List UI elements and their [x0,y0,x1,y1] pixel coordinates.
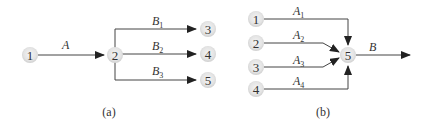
node-a-1: 1 [22,47,38,63]
node-b-4: 4 [248,81,264,97]
edge-label-b: B [369,40,377,54]
edge-label-a4: A4 [292,74,304,90]
edge-label-a: A [61,38,70,52]
edge-label-a2: A2 [292,28,304,44]
node-b-3: 3 [248,59,264,75]
edge-label-a3: A3 [292,53,304,69]
svg-text:5: 5 [205,73,212,88]
edge-label-b2: B2 [152,39,163,55]
diagram-a: A B1 B2 B3 1 2 3 4 5 (a) [22,14,216,119]
node-b-1: 1 [248,11,264,27]
edge-label-b3: B3 [152,64,163,80]
node-a-5: 5 [200,72,216,88]
node-a-3: 3 [200,21,216,37]
diagram-b: A1 A2 A3 A4 B 1 2 3 4 5 (b) [248,4,410,119]
edge-b-2-5 [264,43,339,52]
caption-b: (b) [316,105,330,119]
edge-label-a1: A1 [292,4,304,20]
edge-label-b1: B1 [152,14,163,30]
svg-text:1: 1 [27,48,34,63]
node-b-5: 5 [340,47,356,63]
edge-b-1-5 [264,19,348,45]
node-b-2: 2 [248,35,264,51]
caption-a: (a) [102,105,115,119]
network-diagram: A B1 B2 B3 1 2 3 4 5 (a) [0,0,435,130]
svg-text:3: 3 [205,22,212,37]
edge-b-4-5 [264,66,348,89]
svg-text:4: 4 [253,82,260,97]
svg-text:1: 1 [253,12,260,27]
svg-text:5: 5 [345,48,352,63]
svg-text:2: 2 [112,48,119,63]
svg-text:3: 3 [253,60,260,75]
svg-text:4: 4 [205,47,212,62]
node-a-4: 4 [200,46,216,62]
svg-text:2: 2 [253,36,260,51]
node-a-2: 2 [107,47,123,63]
